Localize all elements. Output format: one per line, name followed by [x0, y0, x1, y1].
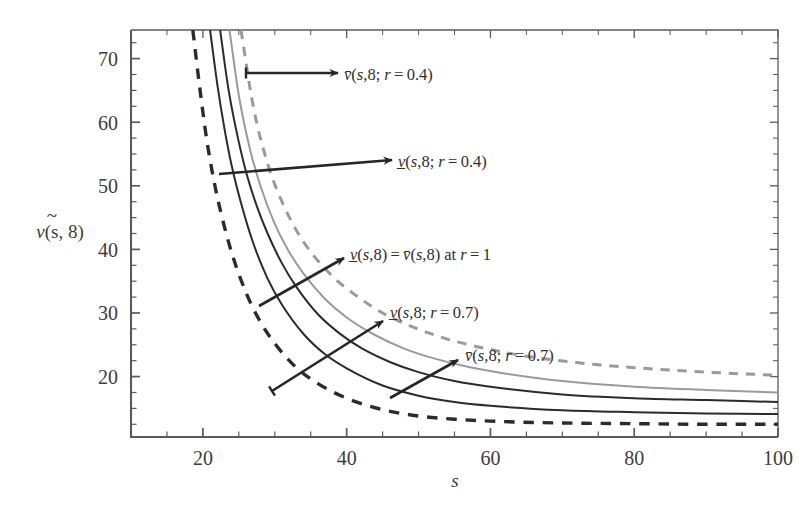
y-tick-label: 20 — [98, 366, 118, 388]
y-tick-label: 70 — [98, 48, 118, 70]
x-tick-label: 20 — [193, 447, 213, 469]
annotation-label: v̄(s,8; r = 0.7) — [465, 346, 554, 365]
annotation-label: v̲(s,8; r = 0.4) — [396, 152, 487, 171]
annotation-label: v̄(s,8; r = 0.4) — [344, 65, 433, 84]
svg-text:~: ~ — [47, 205, 57, 226]
y-tick-label: 50 — [98, 175, 118, 197]
x-tick-label: 60 — [480, 447, 500, 469]
y-tick-label: 40 — [98, 239, 118, 261]
x-tick-label: 80 — [624, 447, 644, 469]
chart-canvas: 20406080100 203040506070 v̄(s,8; r = 0.4… — [0, 0, 808, 513]
figure-container: 20406080100 203040506070 v̄(s,8; r = 0.4… — [0, 0, 808, 513]
x-axis-title: s — [451, 470, 458, 491]
y-tick-label: 60 — [98, 112, 118, 134]
x-tick-label: 40 — [337, 447, 357, 469]
annotation-label: v̲(s,8; r = 0.7) — [388, 303, 479, 322]
y-tick-label: 30 — [98, 302, 118, 324]
x-tick-label: 100 — [763, 447, 793, 469]
annotation-label: v̲(s,8) = v̄(s,8) at r = 1 — [348, 245, 491, 264]
svg-text:v(s, 8): v(s, 8) — [36, 221, 84, 243]
